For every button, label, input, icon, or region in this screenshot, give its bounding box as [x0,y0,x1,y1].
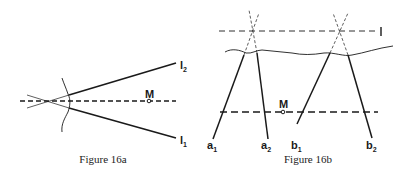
wavy-surface-curve [225,46,393,55]
line-l1 [69,108,176,138]
b2-extension-dashed [333,13,348,55]
b1-extension-dashed [330,13,348,53]
line-l2-label: l2 [180,59,187,73]
figure-16a-caption: Figure 16a [79,153,126,165]
point-m-label: M [145,88,154,100]
a2-extension-dashed [249,10,257,53]
figure-16a: M l2 l1 Figure 16a [20,59,187,165]
point-m-marker [281,110,285,114]
wavy-surface-curve [62,78,70,132]
line-a1-label: a1 [207,139,217,153]
line-a2-label: a2 [261,139,271,153]
figure-canvas: M l2 l1 Figure 16a l M a1 a2 b1 b2 [0,0,412,177]
line-b1-label: b1 [291,139,302,153]
line-a1 [213,55,244,139]
a1-extension-dashed [244,13,259,55]
figure-16b-caption: Figure 16b [284,153,332,165]
line-b1 [297,53,330,124]
figure-16b: l M a1 a2 b1 b2 Figure 16b [207,10,393,165]
line-l1-label: l1 [180,134,187,148]
line-b2 [348,55,372,138]
line-a2 [257,53,268,139]
line-b2-label: b2 [366,139,377,153]
line-l2 [69,63,176,95]
point-m-label: M [279,98,288,110]
